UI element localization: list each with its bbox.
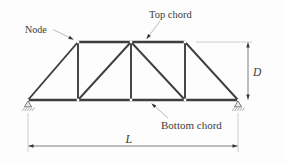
- span-dimension-label: L: [125, 132, 133, 146]
- right-end-diagonal-member: [185, 42, 238, 100]
- left-end-diagonal-member: [28, 42, 78, 100]
- node-label: Node: [25, 24, 47, 35]
- bottom-chord-label: Bottom chord: [161, 119, 222, 131]
- extension-lines: [28, 42, 252, 152]
- node-leader-line: [53, 30, 74, 40]
- node-top-3: [184, 41, 187, 44]
- truss-diagram: Node Top chord Bottom chord D L: [0, 0, 285, 164]
- node-top-1: [77, 41, 80, 44]
- node-bottom-3: [184, 99, 187, 102]
- truss-nodes: [27, 41, 239, 102]
- depth-dimension-label: D: [252, 66, 262, 78]
- node-bottom-1: [77, 99, 80, 102]
- bottom-chord-leader-line: [152, 104, 169, 119]
- truss-diagram-canvas: Node Top chord Bottom chord D L: [0, 0, 285, 164]
- diagonal-member-3: [131, 42, 185, 100]
- top-chord-leader-line: [147, 21, 161, 39]
- node-bottom-2: [130, 99, 133, 102]
- truss-members: [28, 42, 238, 100]
- diagonal-member-2: [78, 42, 131, 100]
- diagram-labels: Node Top chord Bottom chord D L: [25, 9, 262, 146]
- right-support-icon: [232, 101, 245, 111]
- node-top-2: [130, 41, 133, 44]
- leader-lines: [53, 21, 168, 118]
- left-support-icon: [22, 101, 35, 111]
- top-chord-label: Top chord: [149, 9, 192, 20]
